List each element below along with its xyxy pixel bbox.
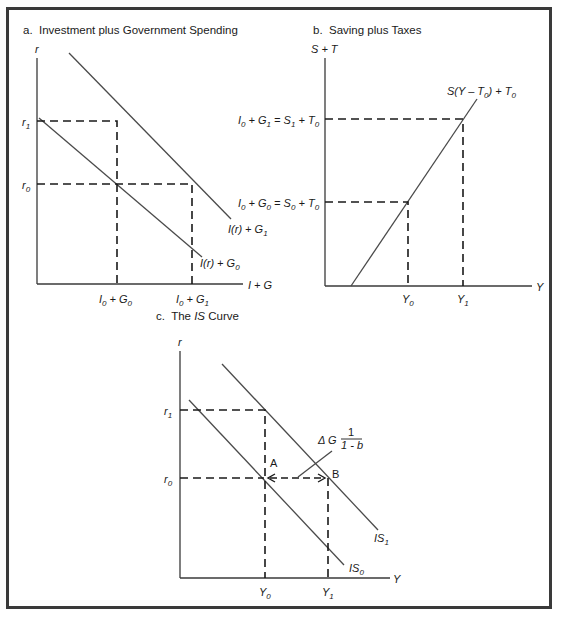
annotation-leader-line [298,451,332,477]
panel-b-y0-guide [325,202,408,286]
panel-c-tick-y0: Y0 [259,586,271,601]
panel-c-x-axis-label: Y [393,573,401,585]
is0-curve [189,400,344,565]
panel-c-tick-r1: r1 [164,405,172,420]
panel-a: a. Investment plus Government Spending r… [22,24,273,308]
saving-plus-taxes-curve [351,99,477,286]
panel-c-label-is0: IS0 [349,562,364,577]
point-b-label: B [332,468,339,480]
panel-a-label-i-g0: I(r) + G0 [200,257,240,272]
panel-a-r0-guide [37,184,192,284]
is-curve-derivation-diagram: a. Investment plus Government Spending r… [0,0,561,620]
panel-c-title: c. The IS Curve [156,310,239,322]
panel-b-tick-high: I0 + G1 = S1 + T0 [238,114,320,129]
annotation-fraction-numerator: 1 [348,426,354,438]
point-a-label: A [270,457,278,469]
annotation-delta-g: Δ G [317,434,337,446]
panel-c: c. The IS Curve r Y Δ G 1 1 - b A B r1 r… [156,310,401,601]
panel-b-tick-y1: Y1 [457,293,469,308]
panel-b-tick-y0: Y0 [402,293,414,308]
panel-b-x-axis-label: Y [536,281,544,293]
panel-a-r1-guide [37,121,117,284]
panel-c-y-axis-label: r [178,336,183,348]
panel-b-label-saving: S(Y – T0) + T0 [447,85,516,100]
panel-b-y-axis-label: S + T [311,43,339,55]
investment-curve-g1 [69,53,231,219]
panel-b-title: b. Saving plus Taxes [313,24,422,36]
panel-a-label-i-g1: I(r) + G1 [228,223,268,238]
panel-a-tick-r1: r1 [22,116,30,131]
investment-curve-g0 [39,118,202,257]
panel-a-y-axis-label: r [35,43,40,55]
panel-a-tick-r0: r0 [22,179,31,194]
panel-c-tick-y1: Y1 [322,586,334,601]
panel-a-tick-i0g1: I0 + G1 [176,293,209,308]
panel-a-title: a. Investment plus Government Spending [23,24,238,36]
panel-c-label-is1: IS1 [374,532,389,547]
panel-a-tick-i0g0: I0 + G0 [99,293,133,308]
panel-a-x-axis-label: I + G [248,279,273,291]
panel-b-tick-low: I0 + G0 = S0 + T0 [238,197,320,212]
annotation-fraction-denominator: 1 - b [341,439,363,451]
panel-b: b. Saving plus Taxes S + T Y I0 + G1 = S… [238,24,544,308]
panel-c-tick-r0: r0 [164,473,173,488]
